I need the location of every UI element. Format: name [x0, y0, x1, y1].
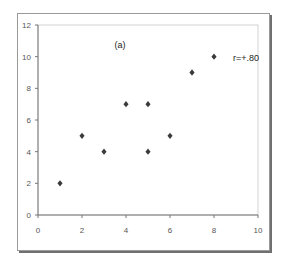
y-tick-label: 0	[27, 211, 32, 220]
diamond-marker	[189, 69, 194, 75]
x-tick-label: 6	[168, 226, 173, 235]
x-tick-label: 0	[36, 226, 41, 235]
diamond-marker	[79, 133, 84, 139]
scatter-chart: 024681012 0246810 (a) r=+.80	[0, 0, 285, 258]
chart-title: (a)	[115, 40, 126, 50]
y-tick-label: 12	[22, 21, 31, 30]
diamond-marker	[211, 53, 216, 59]
diamond-marker	[101, 148, 106, 154]
diamond-marker	[145, 101, 150, 107]
y-tick-label: 2	[27, 179, 32, 188]
x-tick-label: 8	[212, 226, 217, 235]
y-tick-label: 10	[22, 53, 31, 62]
y-axis-ticks: 024681012	[22, 21, 38, 220]
x-tick-label: 10	[254, 226, 263, 235]
diamond-marker	[123, 101, 128, 107]
plot-area	[38, 25, 258, 215]
diamond-marker	[145, 148, 150, 154]
x-axis-ticks: 0246810	[36, 215, 263, 235]
x-tick-label: 2	[80, 226, 85, 235]
diamond-marker	[57, 180, 62, 186]
axes	[38, 25, 258, 215]
x-tick-label: 4	[124, 226, 129, 235]
y-tick-label: 8	[27, 84, 32, 93]
diamond-marker	[167, 133, 172, 139]
data-points	[57, 53, 216, 186]
correlation-annotation: r=+.80	[233, 53, 259, 63]
y-tick-label: 4	[27, 148, 32, 157]
y-tick-label: 6	[27, 116, 32, 125]
